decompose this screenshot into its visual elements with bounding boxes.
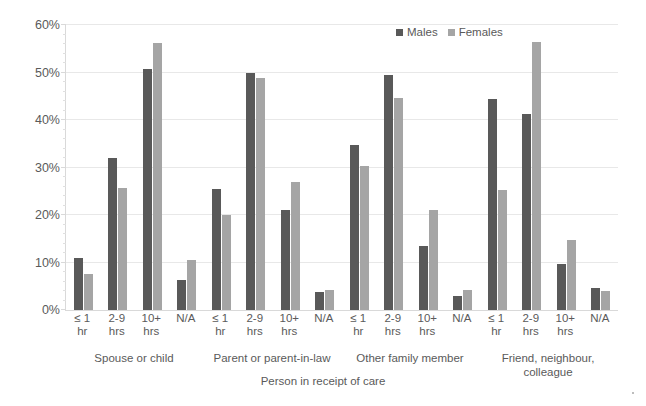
bar-category: [66, 25, 101, 310]
y-tick-label: 10%: [20, 256, 60, 270]
x-category-label: 2-9hrs: [238, 312, 273, 352]
bar-males[interactable]: [74, 258, 83, 310]
x-axis-title: Person in receipt of care: [0, 375, 646, 387]
bar-females[interactable]: [567, 240, 576, 310]
bar-category: [411, 25, 446, 310]
x-category-label: N/A: [583, 312, 618, 352]
bar-group: [480, 25, 618, 310]
bar-group: [342, 25, 480, 310]
bar-females[interactable]: [187, 260, 196, 310]
bar-males[interactable]: [557, 264, 566, 310]
x-category-label: N/A: [445, 312, 480, 352]
x-category-label: N/A: [307, 312, 342, 352]
bar-females[interactable]: [532, 42, 541, 310]
bar-females[interactable]: [222, 215, 231, 310]
bar-group: [66, 25, 204, 310]
x-axis-categories: ≤ 1hr2-9hrs10+hrsN/A≤ 1hr2-9hrs10+hrsN/A…: [65, 312, 617, 352]
x-category-label: ≤ 1hr: [203, 312, 238, 352]
x-category-label: 10+hrs: [272, 312, 307, 352]
x-group: ≤ 1hr2-9hrs10+hrsN/A: [341, 312, 479, 352]
x-group: ≤ 1hr2-9hrs10+hrsN/A: [65, 312, 203, 352]
bar-males[interactable]: [453, 296, 462, 310]
bar-females[interactable]: [153, 43, 162, 310]
bar-group: [204, 25, 342, 310]
x-group: ≤ 1hr2-9hrs10+hrsN/A: [203, 312, 341, 352]
bar-males[interactable]: [419, 246, 428, 310]
y-tick-label: 50%: [20, 66, 60, 80]
x-category-label: N/A: [169, 312, 204, 352]
bar-males[interactable]: [315, 292, 324, 310]
bar-females[interactable]: [325, 290, 334, 310]
bar-category: [584, 25, 619, 310]
y-tick-label: 40%: [20, 113, 60, 127]
x-group: ≤ 1hr2-9hrs10+hrsN/A: [479, 312, 617, 352]
x-category-label: 2-9hrs: [100, 312, 135, 352]
y-tick-label: 20%: [20, 208, 60, 222]
x-category-label: ≤ 1hr: [479, 312, 514, 352]
bar-females[interactable]: [256, 78, 265, 310]
x-category-label: 2-9hrs: [514, 312, 549, 352]
bar-males[interactable]: [177, 280, 186, 310]
bar-females[interactable]: [498, 190, 507, 310]
bar-males[interactable]: [591, 288, 600, 310]
bar-females[interactable]: [291, 182, 300, 310]
bar-females[interactable]: [429, 210, 438, 310]
bar-category: [342, 25, 377, 310]
bar-category: [515, 25, 550, 310]
x-category-label: 10+hrs: [134, 312, 169, 352]
bar-males[interactable]: [143, 69, 152, 310]
bar-males[interactable]: [108, 158, 117, 310]
bar-females[interactable]: [84, 274, 93, 310]
x-category-label: 10+hrs: [548, 312, 583, 352]
bar-category: [480, 25, 515, 310]
bar-category: [549, 25, 584, 310]
bar-males[interactable]: [522, 114, 531, 310]
bar-males[interactable]: [281, 210, 290, 310]
x-category-label: ≤ 1hr: [65, 312, 100, 352]
bar-males[interactable]: [384, 75, 393, 310]
corner-mark: [632, 392, 634, 394]
bar-females[interactable]: [601, 291, 610, 310]
bar-category: [135, 25, 170, 310]
bar-category: [204, 25, 239, 310]
bar-category: [101, 25, 136, 310]
bar-category: [273, 25, 308, 310]
y-tick-label: 60%: [20, 18, 60, 32]
bar-category: [377, 25, 412, 310]
bar-category: [446, 25, 481, 310]
bar-category: [239, 25, 274, 310]
bar-males[interactable]: [488, 99, 497, 310]
x-category-label: 10+hrs: [410, 312, 445, 352]
bar-females[interactable]: [394, 98, 403, 310]
bar-category: [170, 25, 205, 310]
bar-category: [308, 25, 343, 310]
bar-groups: [66, 25, 618, 310]
bar-females[interactable]: [118, 188, 127, 310]
plot-area: 0%10%20%30%40%50%60%: [65, 25, 618, 311]
bar-males[interactable]: [246, 73, 255, 310]
y-tick-label: 0%: [20, 303, 60, 317]
x-category-label: 2-9hrs: [376, 312, 411, 352]
y-tick-label: 30%: [20, 161, 60, 175]
bar-females[interactable]: [360, 166, 369, 310]
bar-females[interactable]: [463, 290, 472, 310]
bar-males[interactable]: [212, 189, 221, 310]
x-category-label: ≤ 1hr: [341, 312, 376, 352]
bar-males[interactable]: [350, 145, 359, 310]
bar-chart: Males Females 0%10%20%30%40%50%60% ≤ 1hr…: [0, 0, 646, 406]
